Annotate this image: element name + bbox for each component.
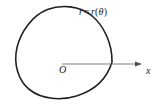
polar-curve-equation-label: r=r(θ)	[79, 7, 107, 17]
equation-close-paren: )	[104, 6, 108, 17]
polar-curve	[16, 7, 112, 99]
polar-curve-figure: r=r(θ) O x	[0, 0, 161, 104]
origin-label: O	[59, 65, 66, 75]
equation-equals-sign: =	[83, 6, 91, 17]
x-axis-label: x	[146, 66, 150, 76]
